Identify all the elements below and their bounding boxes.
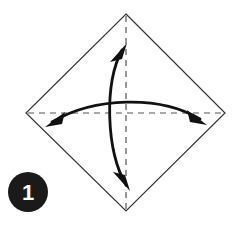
step-badge: 1 [8, 172, 48, 212]
origami-step-diagram: 1 [0, 0, 238, 226]
step-badge-label: 1 [22, 180, 34, 205]
figure-canvas: 1 [0, 0, 238, 226]
